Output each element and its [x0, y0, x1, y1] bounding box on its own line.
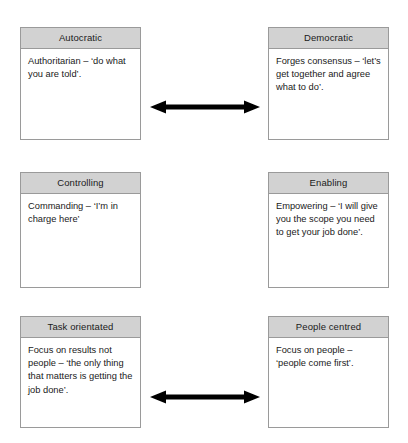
- concept-box-body: Focus on people – ‘people come first’.: [269, 338, 388, 427]
- concept-box-controlling[interactable]: Controlling Commanding – ‘I’m in charge …: [20, 172, 141, 288]
- concept-box-body: Commanding – ‘I’m in charge here’: [21, 194, 140, 287]
- concept-box-task-orientated[interactable]: Task orientated Focus on results not peo…: [20, 316, 141, 428]
- concept-box-body: Focus on results not people – ‘the only …: [21, 338, 140, 427]
- concept-box-people-centred[interactable]: People centred Focus on people – ‘people…: [268, 316, 389, 428]
- concept-box-title: Task orientated: [21, 317, 140, 338]
- pair-row-task-people: Task orientated Focus on results not peo…: [0, 316, 408, 428]
- concept-box-body: Authoritarian – ‘do what you are told’.: [21, 49, 140, 139]
- concept-box-body: Empowering – ‘I will give you the scope …: [269, 194, 388, 287]
- concept-box-autocratic[interactable]: Autocratic Authoritarian – ‘do what you …: [20, 27, 141, 140]
- leadership-styles-diagram: Autocratic Authoritarian – ‘do what you …: [0, 0, 408, 443]
- concept-box-title: People centred: [269, 317, 388, 338]
- concept-box-title: Enabling: [269, 173, 388, 194]
- concept-box-body: Forges consensus – ‘let’s get together a…: [269, 49, 388, 139]
- concept-box-enabling[interactable]: Enabling Empowering – ‘I will give you t…: [268, 172, 389, 288]
- pair-row-controlling-enabling: Controlling Commanding – ‘I’m in charge …: [0, 172, 408, 288]
- concept-box-title: Autocratic: [21, 28, 140, 49]
- double-headed-arrow-icon: [150, 96, 260, 118]
- concept-box-democratic[interactable]: Democratic Forges consensus – ‘let’s get…: [268, 27, 389, 140]
- concept-box-title: Democratic: [269, 28, 388, 49]
- pair-row-autocratic-democratic: Autocratic Authoritarian – ‘do what you …: [0, 27, 408, 140]
- concept-box-title: Controlling: [21, 173, 140, 194]
